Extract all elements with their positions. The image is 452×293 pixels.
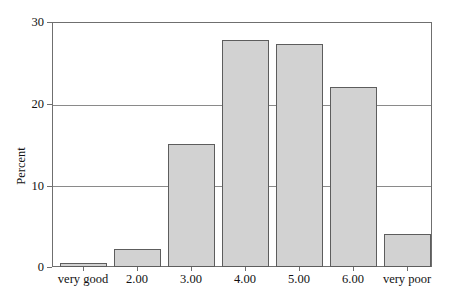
bar-3-00 — [168, 144, 215, 267]
bar-4-00 — [222, 40, 269, 267]
x-tick-mark-5-00 — [299, 267, 300, 271]
bar-6-00 — [330, 87, 377, 267]
x-tick-mark-very-good — [83, 267, 84, 271]
x-tick-mark-very-poor — [407, 267, 408, 271]
bar-very-poor — [384, 234, 431, 267]
y-axis-title: Percent — [14, 126, 29, 206]
x-tick-mark-2-00 — [137, 267, 138, 271]
y-tick-label-0: 0 — [4, 261, 44, 274]
x-tick-mark-3-00 — [191, 267, 192, 271]
bar-chart: 30 20 10 0 Percent very good 2.00 3.00 — [0, 0, 452, 293]
x-axis: very good 2.00 3.00 4.00 5.00 6.00 very … — [52, 267, 432, 293]
x-tick-mark-4-00 — [245, 267, 246, 271]
bar-5-00 — [276, 44, 323, 267]
y-tick-label-20: 20 — [4, 98, 44, 111]
x-tick-label-very-poor: very poor — [367, 273, 447, 287]
y-tick-label-30: 30 — [4, 16, 44, 29]
x-tick-mark-6-00 — [353, 267, 354, 271]
bars-layer — [52, 22, 432, 267]
bar-2-00 — [114, 249, 161, 267]
